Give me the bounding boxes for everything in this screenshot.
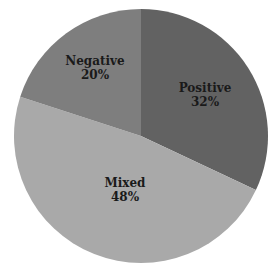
- pie-chart: Positive32%Mixed48%Negative20%: [0, 0, 278, 274]
- pie-slices: [14, 9, 268, 263]
- slice-label-mixed: Mixed: [104, 176, 146, 190]
- slice-percent-positive: 32%: [191, 95, 220, 109]
- slice-label-negative: Negative: [65, 54, 125, 68]
- slice-percent-negative: 20%: [81, 68, 110, 82]
- slice-percent-mixed: 48%: [111, 190, 140, 204]
- slice-label-positive: Positive: [179, 81, 232, 95]
